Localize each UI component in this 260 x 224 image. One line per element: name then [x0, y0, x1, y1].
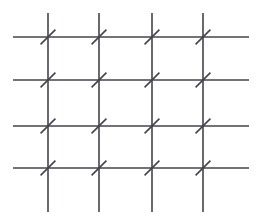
grid-diagram — [0, 0, 260, 224]
figure-canvas — [0, 0, 260, 224]
figure-background — [0, 0, 260, 224]
